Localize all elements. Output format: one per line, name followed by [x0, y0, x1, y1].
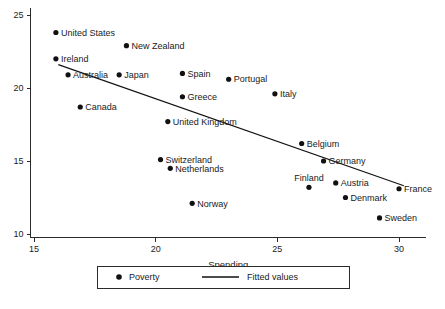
x-tick-label: 20 — [151, 244, 161, 254]
data-point: Australia — [65, 70, 108, 80]
point-marker — [180, 94, 185, 99]
point-marker — [343, 195, 348, 200]
point-label: France — [404, 184, 432, 194]
data-point: United Kingdom — [165, 117, 237, 127]
point-marker — [53, 56, 58, 61]
point-label: Australia — [73, 70, 108, 80]
data-point: Denmark — [343, 193, 388, 203]
chart-legend: PovertyFitted values — [97, 266, 349, 288]
data-point: Finland — [294, 173, 324, 190]
data-point: Spain — [180, 69, 211, 79]
point-marker — [272, 91, 277, 96]
point-marker — [321, 158, 326, 163]
point-marker — [190, 201, 195, 206]
y-tick-label: 20 — [13, 83, 23, 93]
data-point: Portugal — [226, 74, 267, 84]
point-label: Austria — [341, 178, 369, 188]
point-marker — [117, 72, 122, 77]
point-label: Sweden — [385, 213, 418, 223]
point-label: United States — [61, 28, 116, 38]
point-label: Netherlands — [175, 164, 224, 174]
x-tick-label: 15 — [29, 244, 39, 254]
data-point: Belgium — [299, 139, 339, 149]
point-label: New Zealand — [131, 41, 184, 51]
point-marker — [306, 185, 311, 190]
point-label: Ireland — [61, 54, 89, 64]
scatter-chart: 1015202515202530Spending United StatesNe… — [0, 0, 445, 309]
data-point: Netherlands — [168, 164, 225, 174]
data-point: Norway — [190, 199, 229, 209]
point-label: United Kingdom — [173, 117, 237, 127]
point-marker — [168, 166, 173, 171]
point-marker — [377, 215, 382, 220]
x-tick-label: 30 — [394, 244, 404, 254]
point-marker — [53, 30, 58, 35]
data-point: Austria — [333, 178, 369, 188]
point-label: Greece — [187, 92, 217, 102]
point-label: Italy — [280, 89, 297, 99]
point-label: Belgium — [307, 139, 340, 149]
point-label: Germany — [329, 156, 367, 166]
data-point: Canada — [78, 102, 117, 112]
y-tick-label: 10 — [13, 229, 23, 239]
x-tick-label: 25 — [272, 244, 282, 254]
point-label: Denmark — [350, 193, 387, 203]
y-tick-label: 15 — [13, 156, 23, 166]
data-point: Germany — [321, 156, 366, 166]
data-points: United StatesNew ZealandIrelandAustralia… — [53, 28, 432, 223]
point-label: Spain — [187, 69, 210, 79]
point-label: Japan — [124, 70, 149, 80]
data-point: New Zealand — [124, 41, 185, 51]
axes: 1015202515202530Spending — [13, 8, 426, 270]
legend-poverty-marker — [116, 274, 122, 280]
point-label: Portugal — [234, 74, 268, 84]
point-marker — [165, 119, 170, 124]
point-marker — [78, 104, 83, 109]
point-marker — [226, 77, 231, 82]
point-marker — [124, 43, 129, 48]
point-marker — [65, 72, 70, 77]
data-point: Ireland — [53, 54, 88, 64]
point-marker — [180, 71, 185, 76]
data-point: Italy — [272, 89, 297, 99]
point-label: Canada — [85, 102, 117, 112]
legend-fitted-label: Fitted values — [247, 272, 299, 282]
plot-area: 1015202515202530Spending United StatesNe… — [0, 0, 445, 309]
point-label: Norway — [197, 199, 228, 209]
point-label: Finland — [294, 173, 324, 183]
point-marker — [396, 186, 401, 191]
data-point: Sweden — [377, 213, 417, 223]
legend-poverty-label: Poverty — [129, 272, 160, 282]
point-marker — [158, 157, 163, 162]
y-tick-label: 25 — [13, 10, 23, 20]
point-marker — [333, 180, 338, 185]
data-point: United States — [53, 28, 115, 38]
point-marker — [299, 141, 304, 146]
data-point: Japan — [117, 70, 149, 80]
data-point: Greece — [180, 92, 217, 102]
